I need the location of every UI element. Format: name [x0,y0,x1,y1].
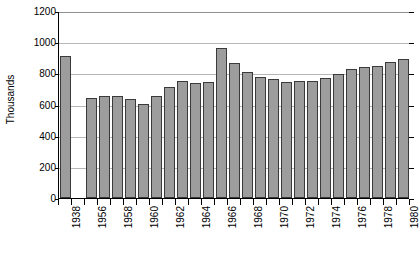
bar-series [59,12,409,198]
bar-1961 [151,96,163,198]
bar-chart: Thousands 020040060080010001200 19381956… [0,0,420,258]
x-tick-mark-end [409,199,410,205]
x-tick-label-1966: 1966 [227,206,239,256]
x-tick-mark-21 [331,199,332,205]
bar-1956 [86,98,98,198]
x-tick-label-1978: 1978 [383,206,395,256]
bar-1957 [99,96,111,198]
y-tick-mark-800 [55,74,59,75]
y-tick-mark-right-1000 [409,43,414,44]
x-tick-mark-2 [84,199,85,205]
bar-1970 [268,79,280,198]
bar-1958 [112,96,124,198]
bar-1975 [333,74,345,198]
x-axis-tick-labels: 1938195619581960196219641966196819701972… [58,206,409,258]
x-tick-label-1962: 1962 [175,206,187,256]
x-tick-mark-12 [214,199,215,205]
bar-1977 [359,67,371,198]
bar-1938 [60,56,72,198]
x-tick-label-1964: 1964 [201,206,213,256]
y-tick-mark-1200 [55,12,59,13]
x-tick-label-1972: 1972 [305,206,317,256]
y-tick-label-200: 200 [22,163,56,173]
x-tick-label-1960: 1960 [149,206,161,256]
x-tick-label-1956: 1956 [97,206,109,256]
x-tick-label-1938: 1938 [71,206,83,256]
y-tick-mark-right-600 [409,106,414,107]
x-tick-mark-1 [71,199,72,205]
x-tick-mark-9 [175,199,176,205]
y-tick-mark-right-400 [409,137,414,138]
x-tick-mark-8 [162,199,163,205]
x-tick-label-1958: 1958 [123,206,135,256]
x-tick-mark-4 [110,199,111,205]
x-tick-label-1970: 1970 [279,206,291,256]
y-tick-mark-600 [55,106,59,107]
bar-1980 [398,59,410,198]
x-tick-mark-23 [357,199,358,205]
y-tick-label-400: 400 [22,132,56,142]
x-tick-mark-24 [370,199,371,205]
bar-1963 [177,81,189,198]
bar-1974 [320,78,332,198]
bar-1973 [307,81,319,198]
x-tick-mark-7 [149,199,150,205]
bar-1966 [216,48,228,198]
x-tick-mark-14 [240,199,241,205]
y-tick-label-800: 800 [22,69,56,79]
x-tick-mark-0 [58,199,59,205]
x-tick-mark-5 [123,199,124,205]
bar-1967 [229,63,241,198]
y-tick-mark-400 [55,137,59,138]
x-tick-mark-6 [136,199,137,205]
x-tick-mark-3 [97,199,98,205]
plot-area [58,12,409,199]
y-axis-tick-labels: 020040060080010001200 [20,0,56,258]
x-tick-mark-15 [253,199,254,205]
bar-1978 [372,66,384,198]
bar-1971 [281,82,293,198]
x-tick-mark-13 [227,199,228,205]
x-tick-mark-18 [292,199,293,205]
x-tick-mark-11 [201,199,202,205]
bar-1969 [255,77,267,198]
x-tick-mark-25 [383,199,384,205]
x-tick-label-1974: 1974 [331,206,343,256]
x-tick-mark-22 [344,199,345,205]
x-tick-mark-26 [396,199,397,205]
x-tick-label-1968: 1968 [253,206,265,256]
x-tick-mark-19 [305,199,306,205]
bar-1965 [203,82,215,198]
bar-1959 [125,99,137,198]
x-tick-mark-20 [318,199,319,205]
y-tick-label-0: 0 [22,194,56,204]
bar-1964 [190,83,202,198]
y-tick-mark-right-200 [409,168,414,169]
x-tick-label-1976: 1976 [357,206,369,256]
y-tick-mark-right-800 [409,74,414,75]
x-tick-mark-16 [266,199,267,205]
bar-1960 [138,104,150,198]
x-axis-tick-marks [58,199,409,206]
bar-1976 [346,69,358,198]
bar-1962 [164,87,176,198]
bar-1979 [385,62,397,198]
x-tick-label-1980: 1980 [409,206,420,256]
x-tick-mark-17 [279,199,280,205]
bar-1968 [242,72,254,198]
y-tick-label-1000: 1000 [22,38,56,48]
y-tick-mark-1000 [55,43,59,44]
y-tick-label-1200: 1200 [22,7,56,17]
x-tick-mark-10 [188,199,189,205]
y-tick-label-600: 600 [22,101,56,111]
y-tick-mark-right-1200 [409,12,414,13]
y-axis-title: Thousands [2,0,18,199]
bar-1972 [294,81,306,198]
y-tick-mark-200 [55,168,59,169]
